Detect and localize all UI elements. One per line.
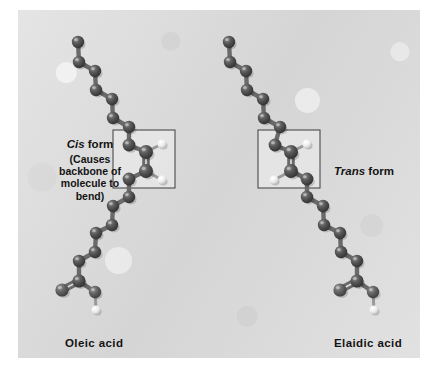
figure-canvas: Cis form (Causes backbone of molecule to… [0,0,434,374]
atom-c [284,145,298,159]
atom-specular-highlight [108,221,112,224]
atom-c [257,93,269,105]
diagram-panel: Cis form (Causes backbone of molecule to… [18,10,420,358]
atom-specular-highlight [303,193,307,196]
atom-c [139,164,153,178]
atom-specular-highlight [336,286,340,289]
atom-specular-highlight [75,58,79,61]
atom-h [269,175,278,184]
atom-specular-highlight [109,114,113,117]
atom-specular-highlight [337,248,341,251]
atom-c [73,56,85,68]
atom-c [139,145,153,159]
trans-emphasis: Trans [334,165,365,177]
atom-specular-highlight [336,229,340,232]
atom-c [240,65,252,77]
atom-specular-highlight [242,67,246,70]
atom-c [241,84,253,96]
atom-specular-highlight [74,38,78,41]
atom-c [258,112,270,124]
atom-o [333,283,346,296]
atom-c [90,84,102,96]
atom-o [89,286,101,298]
atom-c [335,246,347,258]
atom-specular-highlight [159,141,162,143]
atom-specular-highlight [243,86,247,89]
atom-specular-highlight [91,67,95,70]
atom-specular-highlight [287,148,291,151]
atom-c [274,121,286,133]
atom-c [224,56,236,68]
atom-c [106,219,118,231]
atom-specular-highlight [353,277,357,280]
atom-specular-highlight [91,248,95,251]
atom-c [73,255,85,267]
atom-specular-highlight [58,286,62,289]
atom-specular-highlight [260,114,264,117]
atom-c [89,246,101,258]
atom-c [318,219,330,231]
cis-form-heading: Cis form [54,138,126,152]
atom-specular-highlight [304,141,307,143]
atom-specular-highlight [108,95,112,98]
atom-specular-highlight [159,177,162,179]
atom-specular-highlight [92,229,96,232]
atom-specular-highlight [276,123,280,126]
trans-rest: form [365,165,394,177]
atom-c [269,139,282,152]
atom-c [123,121,135,133]
atom-specular-highlight [109,202,113,205]
atom-c [334,227,346,239]
atom-specular-highlight [125,123,129,126]
atom-c [284,164,298,178]
cis-rest: form [85,138,114,150]
atom-specular-highlight [319,202,323,205]
atom-c [301,173,314,186]
atom-specular-highlight [353,257,357,260]
atom-specular-highlight [225,38,229,41]
atom-specular-highlight [320,221,324,224]
cis-emphasis: Cis [67,138,85,150]
atom-h [91,305,100,314]
atom-specular-highlight [271,177,274,179]
cis-form-note: (Causes backbone of molecule to bend) [54,153,126,203]
atom-c [317,200,329,212]
atom-c [90,227,102,239]
atom-specular-highlight [226,58,230,61]
atom-o [55,283,68,296]
atom-h [157,175,166,184]
atom-c [351,255,363,267]
atom-specular-highlight [93,307,96,309]
atom-c [301,191,313,203]
atom-c [89,65,101,77]
atom-h [302,139,311,148]
cis-form-label: Cis form (Causes backbone of molecule to… [54,138,126,202]
atom-specular-highlight [303,175,307,178]
atom-specular-highlight [142,148,146,151]
atom-specular-highlight [287,167,291,170]
atom-c [107,112,119,124]
atom-specular-highlight [75,277,79,280]
atom-c [223,36,235,48]
atom-specular-highlight [271,141,275,144]
atom-specular-highlight [259,95,263,98]
trans-form-label: Trans form [334,165,394,179]
atom-specular-highlight [142,167,146,170]
atom-specular-highlight [75,257,79,260]
oleic-acid-label: Oleic acid [65,337,123,351]
atom-o [367,286,379,298]
atom-specular-highlight [91,288,95,291]
atom-c [72,274,85,287]
atom-c [350,274,363,287]
elaidic-acid-label: Elaidic acid [334,337,402,351]
atom-specular-highlight [92,86,96,89]
atom-c [72,36,84,48]
atom-c [106,93,118,105]
atom-h [369,305,378,314]
atom-specular-highlight [371,307,374,309]
atom-h [157,139,166,148]
atom-specular-highlight [369,288,373,291]
